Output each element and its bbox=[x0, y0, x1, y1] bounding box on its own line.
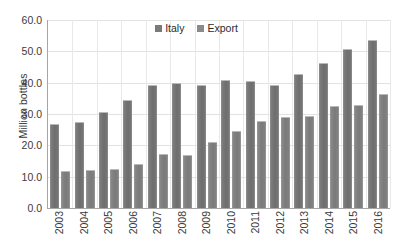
bar-italy-2004[interactable] bbox=[75, 122, 84, 208]
bar-italy-2008[interactable] bbox=[172, 83, 181, 208]
x-axis-tick-label: 2007 bbox=[151, 211, 163, 234]
bar-group bbox=[97, 20, 121, 208]
x-axis-tick-label: 2009 bbox=[200, 211, 212, 234]
bar-group bbox=[268, 20, 292, 208]
x-axis-tick-label: 2015 bbox=[347, 211, 359, 234]
x-axis-tick-label: 2008 bbox=[176, 211, 188, 234]
bar-italy-2005[interactable] bbox=[99, 112, 108, 209]
y-axis-tick-label: 10.0 bbox=[22, 171, 42, 183]
bar-group bbox=[121, 20, 145, 208]
bar-export-2007[interactable] bbox=[159, 154, 168, 208]
x-axis-tick-cell: 2003 bbox=[47, 209, 72, 252]
bar-group bbox=[341, 20, 365, 208]
x-axis-tick-cell: 2006 bbox=[121, 209, 146, 252]
bar-export-2012[interactable] bbox=[281, 117, 290, 208]
x-axis-tick-cell: 2005 bbox=[96, 209, 121, 252]
bar-export-2016[interactable] bbox=[379, 94, 388, 208]
x-axis-tick-cell: 2016 bbox=[366, 209, 391, 252]
x-axis-tick-cell: 2008 bbox=[170, 209, 195, 252]
x-axis-tick-label: 2003 bbox=[53, 211, 65, 234]
bar-group bbox=[72, 20, 96, 208]
x-axis-tick-cell: 2007 bbox=[145, 209, 170, 252]
x-axis-tick-cell: 2013 bbox=[292, 209, 317, 252]
vertical-gridline bbox=[390, 20, 391, 208]
bar-italy-2010[interactable] bbox=[221, 80, 230, 208]
x-axis-tick-cell: 2004 bbox=[72, 209, 97, 252]
plot-area bbox=[47, 20, 390, 209]
bar-export-2013[interactable] bbox=[305, 116, 314, 208]
bar-export-2010[interactable] bbox=[232, 131, 241, 208]
x-axis-tick-label: 2014 bbox=[323, 211, 335, 234]
x-axis-tick-label: 2012 bbox=[274, 211, 286, 234]
bar-export-2015[interactable] bbox=[354, 105, 363, 208]
bar-italy-2011[interactable] bbox=[246, 81, 255, 208]
bar-group bbox=[195, 20, 219, 208]
bar-italy-2009[interactable] bbox=[197, 85, 206, 208]
bar-export-2004[interactable] bbox=[86, 170, 95, 208]
bar-italy-2016[interactable] bbox=[368, 40, 377, 208]
bar-group bbox=[170, 20, 194, 208]
x-axis-tick-label: 2004 bbox=[78, 211, 90, 234]
x-axis-tick-labels: 2003200420052006200720082009201020112012… bbox=[47, 209, 390, 252]
x-axis-tick-label: 2013 bbox=[298, 211, 310, 234]
x-axis-tick-cell: 2010 bbox=[219, 209, 244, 252]
x-axis-tick-label: 2010 bbox=[225, 211, 237, 234]
bar-group bbox=[243, 20, 267, 208]
bar-export-2005[interactable] bbox=[110, 169, 119, 208]
bar-italy-2012[interactable] bbox=[270, 85, 279, 208]
bar-group bbox=[146, 20, 170, 208]
bar-italy-2007[interactable] bbox=[148, 85, 157, 208]
x-axis-tick-label: 2006 bbox=[127, 211, 139, 234]
bar-group bbox=[219, 20, 243, 208]
x-axis-tick-cell: 2011 bbox=[243, 209, 268, 252]
bar-group bbox=[365, 20, 389, 208]
y-axis-tick-label: 30.0 bbox=[22, 108, 42, 120]
bar-export-2009[interactable] bbox=[208, 142, 217, 208]
bar-chart: Million bottles 0.010.020.030.040.050.06… bbox=[0, 0, 393, 252]
bar-group bbox=[317, 20, 341, 208]
bar-export-2006[interactable] bbox=[134, 164, 143, 208]
bar-italy-2014[interactable] bbox=[319, 63, 328, 208]
bar-italy-2003[interactable] bbox=[50, 124, 59, 208]
x-axis-tick-cell: 2015 bbox=[341, 209, 366, 252]
bar-italy-2015[interactable] bbox=[343, 49, 352, 208]
y-axis-tick-label: 60.0 bbox=[22, 14, 42, 26]
bar-export-2008[interactable] bbox=[183, 155, 192, 208]
x-axis-tick-label: 2016 bbox=[372, 211, 384, 234]
bar-group bbox=[48, 20, 72, 208]
bars-layer bbox=[48, 20, 390, 208]
x-axis-tick-cell: 2009 bbox=[194, 209, 219, 252]
y-axis-tick-label: 20.0 bbox=[22, 139, 42, 151]
bar-italy-2013[interactable] bbox=[294, 74, 303, 208]
bar-italy-2006[interactable] bbox=[123, 100, 132, 208]
x-axis-tick-label: 2011 bbox=[249, 211, 261, 234]
x-axis-tick-label: 2005 bbox=[102, 211, 114, 234]
y-axis-tick-label: 40.0 bbox=[22, 77, 42, 89]
x-axis-tick-cell: 2014 bbox=[317, 209, 342, 252]
y-axis-tick-label: 0.0 bbox=[27, 202, 42, 214]
y-axis-tick-label: 50.0 bbox=[22, 45, 42, 57]
bar-export-2011[interactable] bbox=[257, 121, 266, 208]
x-axis-tick-cell: 2012 bbox=[268, 209, 293, 252]
bar-group bbox=[292, 20, 316, 208]
y-axis-tick-labels: 0.010.020.030.040.050.060.0 bbox=[0, 0, 46, 252]
bar-export-2003[interactable] bbox=[61, 171, 70, 208]
bar-export-2014[interactable] bbox=[330, 106, 339, 208]
